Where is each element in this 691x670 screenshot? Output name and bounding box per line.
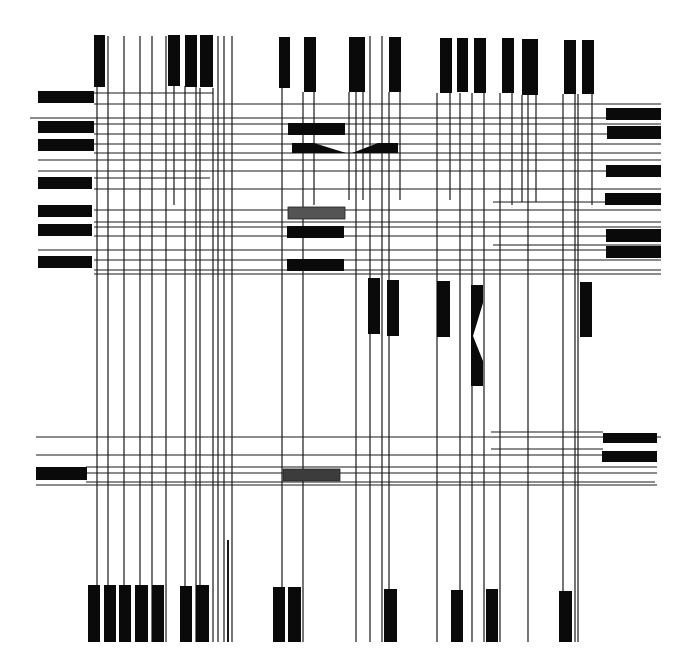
bottom-bar-12 [486, 589, 498, 642]
bottom-bar-13 [559, 591, 572, 642]
top-bar-2 [168, 35, 180, 86]
right-bar-5 [606, 229, 661, 242]
bottom-bar-4 [135, 585, 148, 642]
bottom-bar-5 [152, 585, 164, 642]
left-bar-8 [36, 467, 87, 480]
top-bar-6 [304, 37, 316, 92]
bottom-bar-7 [196, 585, 209, 642]
right-bar-4 [605, 193, 661, 205]
top-bar-11 [474, 38, 486, 93]
top-bar-7 [349, 37, 365, 92]
mid-bar-2 [387, 280, 399, 336]
bottom-bar-8 [273, 587, 285, 642]
right-bar-3 [606, 165, 661, 177]
bottom-bar-9 [288, 587, 301, 642]
mid-bar-1 [368, 278, 380, 334]
top-bar-8 [389, 37, 401, 92]
mid-bar-3 [437, 281, 450, 337]
bottom-bar-1 [88, 585, 100, 642]
mid-bar-4 [580, 282, 592, 337]
top-bar-9 [440, 38, 452, 93]
top-bar-3 [185, 35, 197, 87]
bottom-bar-10 [384, 589, 397, 642]
center-bar-3 [287, 259, 344, 271]
top-bar-1 [94, 35, 105, 87]
bottom-bar-11 [451, 590, 463, 642]
top-bar-5 [279, 37, 290, 88]
left-bar-5 [38, 205, 92, 217]
top-bar-14 [564, 40, 576, 94]
bottom-bar-6 [180, 586, 192, 642]
center-bar-1 [288, 123, 345, 135]
gray-bar-lower [283, 469, 340, 481]
left-bar-6 [38, 224, 92, 236]
top-bar-15 [582, 40, 594, 94]
right-bar-2 [607, 126, 661, 139]
left-bar-3 [38, 139, 94, 151]
right-bar-1 [606, 108, 661, 120]
right-bar-7 [603, 433, 657, 443]
artwork-canvas [0, 0, 691, 670]
top-bar-12 [502, 38, 514, 93]
bottom-bar-2 [104, 585, 116, 642]
center-bar-2 [287, 226, 344, 238]
left-bar-4 [38, 177, 92, 189]
top-bar-4 [200, 35, 213, 87]
right-bar-6 [606, 246, 661, 258]
top-bar-13 [522, 39, 538, 95]
right-bar-8 [602, 451, 657, 462]
bottom-bar-3 [119, 585, 131, 642]
left-bar-2 [38, 121, 94, 133]
top-bar-10 [457, 38, 468, 92]
gray-bar-upper [288, 207, 345, 219]
left-bar-7 [38, 256, 92, 268]
left-bar-1 [38, 91, 94, 103]
